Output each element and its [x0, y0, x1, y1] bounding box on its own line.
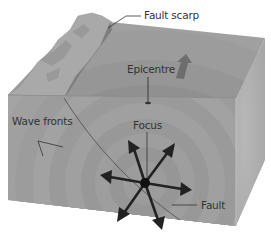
- epicentre-label: Epicentre: [127, 64, 175, 75]
- earthquake-diagram: Fault scarp Epicentre Wave fronts Focus …: [0, 0, 271, 236]
- focus-label: Focus: [133, 120, 162, 131]
- fault-label: Fault: [201, 200, 225, 211]
- fault-scarp-label: Fault scarp: [144, 10, 199, 21]
- wave-fronts-label: Wave fronts: [12, 116, 72, 127]
- epicentre-marker: [145, 102, 151, 104]
- focus-point: [140, 178, 150, 188]
